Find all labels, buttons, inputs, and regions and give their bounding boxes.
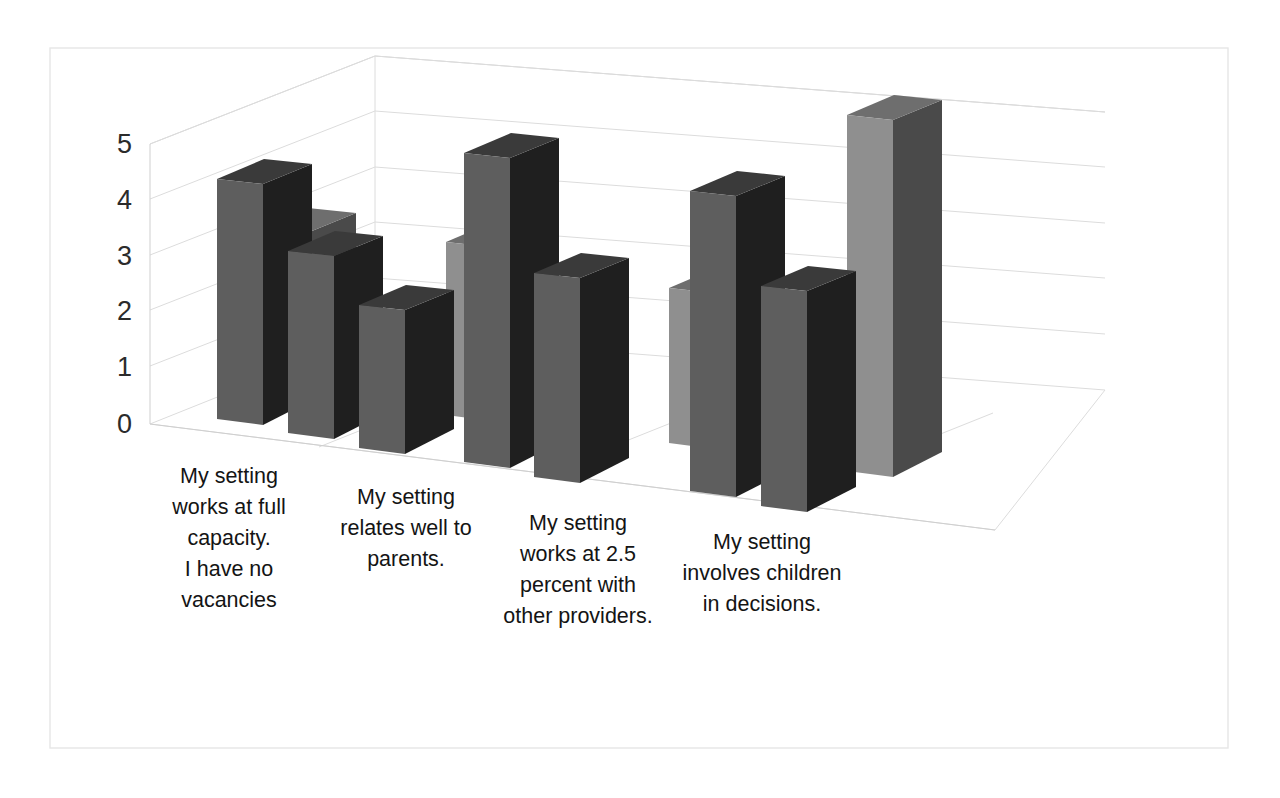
category-label-3-line-1: involves children [683, 561, 842, 585]
category-label-0-line-4: vacancies [181, 588, 277, 612]
category-label-1-line-2: parents. [367, 547, 445, 571]
y-tick-label-5: 5 [117, 129, 132, 159]
category-label-1-line-0: My setting [357, 485, 455, 509]
chart-container: 5 4 3 2 1 0 [0, 0, 1280, 798]
bar-front [288, 251, 334, 439]
bar-side [893, 100, 942, 477]
bar-front [359, 305, 405, 454]
category-label-0-line-3: I have no [185, 557, 273, 581]
bar-side [580, 258, 629, 483]
bar-side [807, 271, 856, 512]
category-label-2-line-1: works at 2.5 [519, 542, 636, 566]
category-label-0: My setting works at full capacity. I hav… [171, 464, 286, 612]
category-label-2-line-2: percent with [520, 573, 636, 597]
y-tick-label-3: 3 [117, 241, 132, 271]
category-label-2-line-3: other providers. [503, 604, 652, 628]
category-label-1-line-1: relates well to [340, 516, 471, 540]
bar-front [534, 273, 580, 483]
chart-svg: 5 4 3 2 1 0 [0, 0, 1280, 798]
category-label-0-line-1: works at full [171, 495, 286, 519]
category-label-3-line-2: in decisions. [703, 592, 821, 616]
bar-front-cat3[interactable] [761, 266, 856, 512]
bar-back-cat3[interactable] [847, 95, 942, 477]
category-label-2-line-0: My setting [529, 511, 627, 535]
bar-side [405, 290, 454, 454]
y-tick-label-1: 1 [117, 352, 132, 382]
category-label-3-line-0: My setting [713, 530, 811, 554]
bar-front [761, 286, 807, 512]
y-tick-label-4: 4 [117, 185, 132, 215]
bar-front-cat1[interactable] [359, 285, 454, 454]
category-label-0-line-0: My setting [180, 464, 278, 488]
category-label-0-line-2: capacity. [187, 526, 270, 550]
bar-front-cat2[interactable] [534, 253, 629, 483]
y-tick-label-0: 0 [117, 409, 132, 439]
bar-front [217, 179, 263, 425]
bar-front [464, 153, 510, 468]
bar-front [690, 191, 736, 497]
y-tick-label-2: 2 [117, 296, 132, 326]
